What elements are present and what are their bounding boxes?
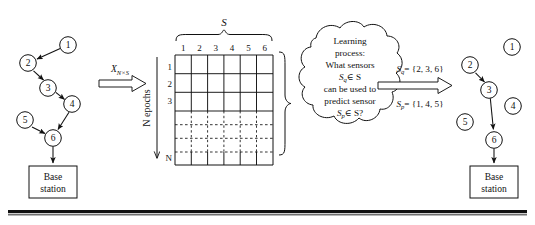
node-3-label: 3 bbox=[46, 83, 51, 93]
result-eq-sp: Sp= {1, 4, 5} bbox=[396, 99, 443, 110]
block-arrow-left bbox=[99, 76, 146, 92]
transform-label-sub: N×S bbox=[116, 69, 130, 76]
node-r-5[interactable]: 5 bbox=[457, 114, 474, 131]
node-r-2[interactable]: 2 bbox=[462, 57, 479, 74]
matrix-row-headers: 1 2 3 N bbox=[166, 62, 173, 164]
left-base-station-line2: station bbox=[40, 184, 66, 194]
node-r-1-label: 1 bbox=[510, 42, 515, 52]
edge-2-3 bbox=[34, 71, 44, 80]
learning-process-cloud: Learning process: What sensors Sq∈ S can… bbox=[299, 21, 402, 123]
cloud-line-5: can be used to bbox=[324, 84, 377, 94]
matrix-col-header-5: 5 bbox=[246, 43, 251, 53]
cloud-line-4-rest: ∈ S bbox=[347, 72, 361, 82]
matrix-epoch-axis: N epochs bbox=[141, 57, 157, 158]
matrix-top-brace bbox=[176, 30, 272, 41]
cloud-line-7: Sp∈ S? bbox=[337, 108, 363, 119]
bottom-rule bbox=[8, 210, 527, 215]
node-r-6[interactable]: 6 bbox=[486, 132, 503, 149]
matrix-row-header-2: 2 bbox=[168, 79, 173, 89]
diagram-svg: 1 2 3 4 5 bbox=[0, 0, 535, 225]
node-r-1[interactable]: 1 bbox=[504, 39, 521, 56]
right-network-group: 1 2 3 4 5 bbox=[457, 39, 522, 198]
matrix-col-header-6: 6 bbox=[262, 43, 267, 53]
node-2[interactable]: 2 bbox=[20, 55, 37, 72]
figure-container: 1 2 3 4 5 bbox=[0, 0, 535, 225]
left-network-group: 1 2 3 4 5 bbox=[17, 37, 81, 198]
edge-4-6 bbox=[58, 112, 69, 129]
node-r-5-label: 5 bbox=[463, 117, 468, 127]
node-1[interactable]: 1 bbox=[60, 37, 77, 54]
right-network-nodes: 1 2 3 4 5 bbox=[457, 39, 522, 149]
matrix-epoch-axis-label: N epochs bbox=[141, 89, 152, 127]
left-network-nodes: 1 2 3 4 5 bbox=[17, 37, 81, 147]
node-r-4[interactable]: 4 bbox=[505, 98, 522, 115]
matrix-grid bbox=[175, 55, 273, 165]
edge-5-6 bbox=[32, 127, 45, 134]
matrix-col-header-4: 4 bbox=[230, 43, 235, 53]
node-5-label: 5 bbox=[23, 115, 28, 125]
right-base-station-line2: station bbox=[481, 184, 507, 194]
right-base-station-line1: Base bbox=[485, 172, 503, 182]
matrix-col-header-2: 2 bbox=[197, 43, 202, 53]
cloud-line-2: process: bbox=[335, 48, 365, 58]
transform-arrow-left-group: XN×S bbox=[99, 64, 146, 92]
matrix-top-brace-label: S bbox=[221, 16, 227, 28]
node-r-6-label: 6 bbox=[492, 135, 497, 145]
left-base-station: Base station bbox=[29, 166, 77, 198]
node-3[interactable]: 3 bbox=[40, 80, 57, 97]
matrix-row-header-1: 1 bbox=[168, 62, 173, 72]
matrix-column-headers: 1 2 3 4 5 6 bbox=[181, 43, 268, 53]
edge-3-4 bbox=[56, 92, 65, 99]
left-base-station-line1: Base bbox=[44, 172, 62, 182]
node-4-label: 4 bbox=[70, 99, 75, 109]
edge-r-3-6 bbox=[490, 98, 493, 129]
matrix-group: S 1 2 3 4 5 6 1 2 3 N bbox=[141, 16, 291, 165]
transform-arrow-left-label: XN×S bbox=[110, 64, 130, 76]
node-r-3[interactable]: 3 bbox=[481, 82, 498, 99]
result-eq-sq-rest: = {2, 3, 6} bbox=[404, 64, 443, 74]
matrix-row-header-3: 3 bbox=[168, 96, 173, 106]
node-6[interactable]: 6 bbox=[45, 130, 62, 147]
matrix-row-header-n: N bbox=[166, 153, 173, 163]
cloud-line-6: predict sensor bbox=[324, 96, 375, 106]
right-base-station: Base station bbox=[470, 166, 518, 198]
node-r-3-label: 3 bbox=[487, 85, 492, 95]
edge-r-2-3 bbox=[476, 73, 485, 82]
matrix-right-brace bbox=[279, 52, 291, 155]
node-1-label: 1 bbox=[66, 40, 71, 50]
cloud-line-3: What sensors bbox=[325, 60, 375, 70]
matrix-col-header-3: 3 bbox=[214, 43, 219, 53]
node-r-2-label: 2 bbox=[468, 60, 473, 70]
edge-1-2 bbox=[37, 49, 60, 60]
node-r-4-label: 4 bbox=[511, 101, 516, 111]
matrix-col-header-1: 1 bbox=[181, 43, 186, 53]
cloud-line-7-rest: ∈ S? bbox=[345, 108, 363, 118]
node-2-label: 2 bbox=[26, 58, 31, 68]
cloud-line-1: Learning bbox=[333, 36, 367, 46]
result-eq-sq: Sq= {2, 3, 6} bbox=[396, 64, 443, 75]
result-eq-sp-rest: = {1, 4, 5} bbox=[404, 99, 443, 109]
cloud-line-4: Sq∈ S bbox=[339, 72, 361, 83]
node-6-label: 6 bbox=[51, 133, 56, 143]
node-4[interactable]: 4 bbox=[64, 96, 81, 113]
node-5[interactable]: 5 bbox=[17, 112, 34, 129]
